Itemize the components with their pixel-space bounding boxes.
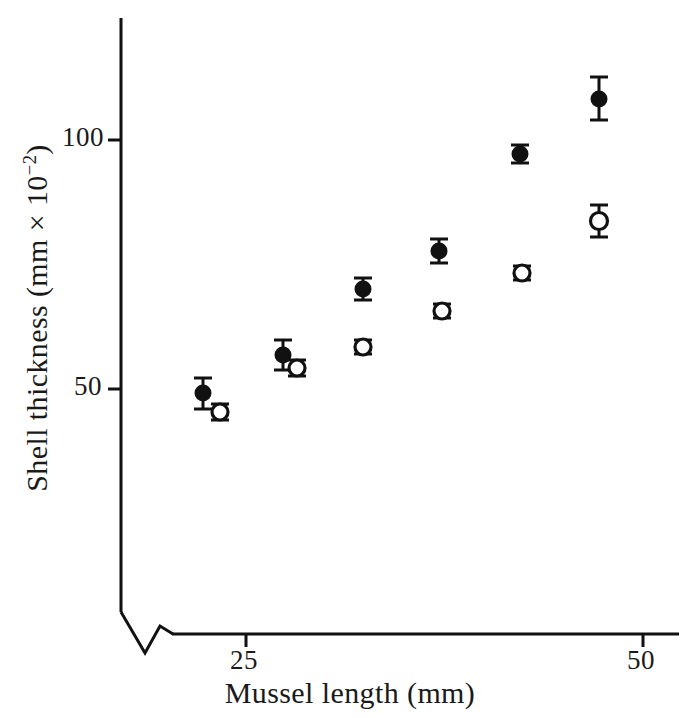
series-filled-circles xyxy=(194,77,608,409)
x-tick-label-50: 50 xyxy=(627,645,655,676)
y-tick-label-100: 100 xyxy=(62,122,104,153)
data-point-filled-5 xyxy=(511,145,529,163)
data-point-filled-1 xyxy=(194,378,212,409)
data-point-open-6 xyxy=(590,205,608,237)
data-point-open-2 xyxy=(288,360,306,376)
x-tick-label-25: 25 xyxy=(230,645,258,676)
data-point-open-1 xyxy=(211,404,229,420)
y-axis-title-exponent: −2 xyxy=(19,155,40,176)
y-tick-label-50: 50 xyxy=(74,371,102,402)
data-point-filled-3 xyxy=(354,278,372,300)
y-axis-title: Shell thickness (mm × 10−2) xyxy=(20,144,53,491)
plot-canvas xyxy=(0,0,700,718)
data-point-open-4 xyxy=(433,303,451,319)
y-axis-title-suffix: ) xyxy=(20,144,53,154)
series-open-circles xyxy=(211,205,608,420)
data-point-filled-6 xyxy=(590,77,608,120)
data-point-open-3 xyxy=(354,339,372,355)
y-axis-title-wrapper: Shell thickness (mm × 10−2) xyxy=(15,118,59,518)
scatter-chart-figure: 100 50 25 50 Mussel length (mm) Shell th… xyxy=(0,0,700,718)
data-point-open-5 xyxy=(513,265,531,281)
data-point-filled-4 xyxy=(430,239,448,263)
y-axis-title-prefix: Shell thickness (mm × 10 xyxy=(20,175,53,492)
x-axis-title: Mussel length (mm) xyxy=(0,676,700,710)
axis-break-zigzag xyxy=(121,612,173,653)
